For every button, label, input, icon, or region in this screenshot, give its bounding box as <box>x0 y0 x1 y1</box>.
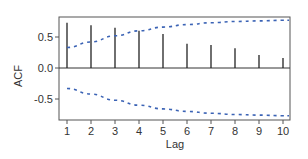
x-tick-label: 3 <box>112 125 118 137</box>
acf-stems <box>67 23 283 68</box>
upper-confidence-band <box>67 20 289 47</box>
y-tick-label: 0.0 <box>38 62 53 74</box>
x-axis-title: Lag <box>166 138 184 150</box>
y-axis-title: ACF <box>12 65 24 87</box>
x-tick-label: 7 <box>208 125 214 137</box>
x-axis: 12345678910 <box>64 120 289 137</box>
x-tick-label: 8 <box>232 125 238 137</box>
x-tick-label: 2 <box>88 125 94 137</box>
y-tick-label: -0.5 <box>34 93 53 105</box>
x-tick-label: 5 <box>160 125 166 137</box>
x-tick-label: 6 <box>184 125 190 137</box>
x-tick-label: 1 <box>64 125 70 137</box>
x-tick-label: 4 <box>136 125 142 137</box>
acf-chart: 0.50.0-0.5 12345678910 ACF Lag <box>0 0 308 159</box>
lower-confidence-band <box>67 88 289 115</box>
x-tick-label: 10 <box>277 125 289 137</box>
y-tick-label: 0.5 <box>38 31 53 43</box>
x-tick-label: 9 <box>256 125 262 137</box>
y-axis: 0.50.0-0.5 <box>34 31 59 105</box>
